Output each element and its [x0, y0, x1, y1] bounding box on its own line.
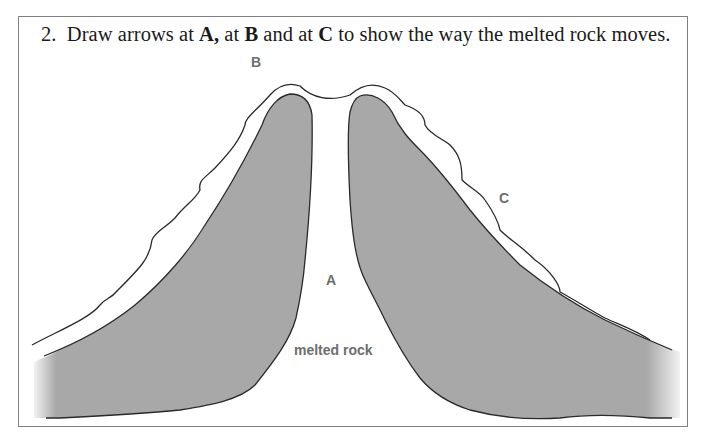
left-rock-mass — [34, 94, 312, 418]
label-melted-rock: melted rock — [294, 342, 373, 358]
right-rock-mass — [348, 95, 680, 419]
volcano-diagram — [0, 0, 704, 442]
label-a: A — [326, 272, 336, 288]
label-c: C — [499, 190, 509, 206]
label-b: B — [251, 54, 261, 70]
